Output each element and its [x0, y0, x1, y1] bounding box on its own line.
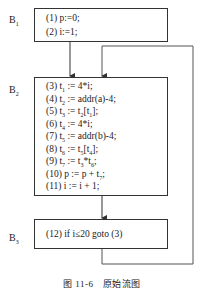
stmt-1: (1) p:=0;: [46, 12, 80, 24]
figure-caption: 图 11-6 原始流图: [0, 277, 204, 290]
block-label-b1: B1: [9, 14, 19, 27]
stmt-2: (2) i:=1;: [46, 26, 77, 38]
stmt-12: (12) if i≤20 goto (3): [46, 228, 122, 240]
block-label-b3: B3: [9, 232, 19, 245]
block-label-b2: B2: [9, 84, 19, 97]
stmt-11: (11) i := i + 1;: [46, 180, 99, 192]
